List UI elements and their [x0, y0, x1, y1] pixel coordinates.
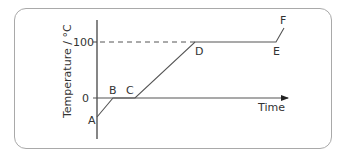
point-label-c: C: [126, 84, 134, 97]
y-axis-label: Temperature / °C: [61, 24, 74, 119]
point-label-e: E: [273, 45, 280, 58]
x-axis-label: Time: [257, 101, 285, 114]
point-label-f: F: [280, 14, 286, 27]
point-label-b: B: [109, 84, 117, 97]
y-tick-100: 100: [73, 36, 94, 49]
heating-curve-diagram: 100 0 A B C D E F Time Temperature / °C: [0, 0, 346, 156]
point-label-a: A: [88, 114, 96, 127]
y-tick-0: 0: [82, 92, 89, 105]
heating-curve: [97, 28, 284, 117]
point-label-d: D: [195, 45, 203, 58]
